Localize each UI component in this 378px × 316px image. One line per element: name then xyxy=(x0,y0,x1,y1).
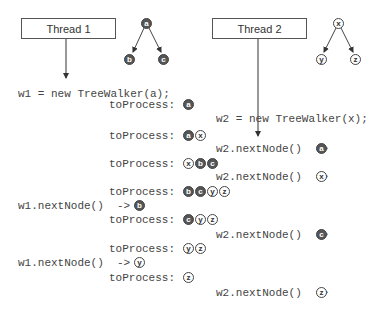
to-process-queue: cyz xyxy=(183,214,218,225)
to-process-queue: yz xyxy=(183,243,206,254)
to-process-label: toProcess: xyxy=(109,186,175,198)
thread-2-label: Thread 2 xyxy=(237,23,281,35)
to-process-label: toProcess: xyxy=(109,158,175,170)
to-process-label: toProcess: xyxy=(109,99,175,111)
code-line: w2.nextNode() -> xyxy=(216,143,328,155)
code-line: w1.nextNode() -> xyxy=(18,200,130,212)
node-b: b xyxy=(183,186,194,197)
to-process-queue: z xyxy=(183,272,194,283)
node-x: x xyxy=(195,130,206,141)
thread-1-box: Thread 1 xyxy=(21,18,116,39)
node-y: y xyxy=(183,243,194,254)
node-c: c xyxy=(207,158,218,169)
node-y: y xyxy=(195,214,206,225)
thread-1-label: Thread 1 xyxy=(46,23,90,35)
tree-node-x: x xyxy=(333,18,344,29)
result-node-y: y xyxy=(134,257,145,268)
to-process-label: toProcess: xyxy=(109,214,175,226)
node-z: z xyxy=(207,214,218,225)
tree-node-b: b xyxy=(124,54,135,65)
to-process-label: toProcess: xyxy=(109,272,175,284)
tree-node-a: a xyxy=(141,18,152,29)
code-line: w2.nextNode() -> xyxy=(216,229,328,241)
code-line: w1.nextNode() -> xyxy=(18,257,130,269)
node-a: a xyxy=(183,99,194,110)
code-line: w2.nextNode() -> xyxy=(216,287,328,299)
tree-node-z: z xyxy=(350,54,361,65)
result-node-b: b xyxy=(134,200,145,211)
to-process-label: toProcess: xyxy=(109,243,175,255)
node-z: z xyxy=(219,186,230,197)
to-process-queue: a xyxy=(183,99,194,110)
node-z: z xyxy=(195,243,206,254)
code-line: w2 = new TreeWalker(x); xyxy=(216,113,368,125)
node-c: c xyxy=(183,214,194,225)
to-process-label: toProcess: xyxy=(109,130,175,142)
node-c: c xyxy=(195,186,206,197)
result-node-c: c xyxy=(316,229,327,240)
tree-node-y: y xyxy=(316,54,327,65)
result-node-z: z xyxy=(316,287,327,298)
node-b: b xyxy=(195,158,206,169)
thread-2-box: Thread 2 xyxy=(212,18,307,39)
result-node-a: a xyxy=(316,143,327,154)
result-node-x: x xyxy=(316,171,327,182)
to-process-queue: bcyz xyxy=(183,186,230,197)
node-a: a xyxy=(183,130,194,141)
to-process-queue: ax xyxy=(183,130,206,141)
code-line: w2.nextNode() -> xyxy=(216,171,328,183)
node-z: z xyxy=(183,272,194,283)
to-process-queue: xbc xyxy=(183,158,218,169)
node-x: x xyxy=(183,158,194,169)
tree-node-c: c xyxy=(158,54,169,65)
node-y: y xyxy=(207,186,218,197)
